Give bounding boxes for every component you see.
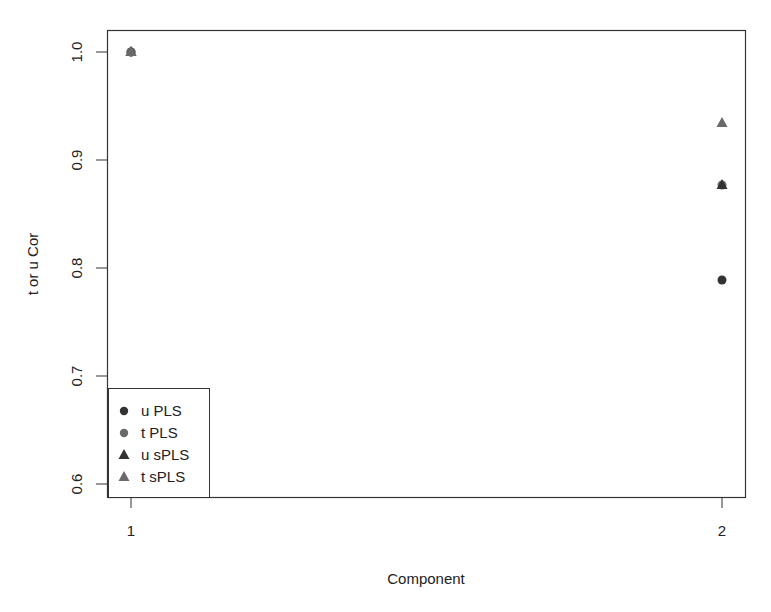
- x-tick-label: 1: [127, 522, 135, 539]
- legend-label: u PLS: [141, 402, 182, 419]
- point-t-spls-2: [717, 117, 728, 127]
- x-axis: [131, 497, 722, 508]
- legend-label: u sPLS: [141, 446, 189, 463]
- y-axis-title: t or u Cor: [24, 233, 41, 296]
- point-u-pls-2: [718, 276, 727, 285]
- data-points: [126, 46, 728, 285]
- scatter-chart: 1.0 0.9 0.8 0.7 0.6 1 2 Component t or u…: [0, 0, 771, 612]
- legend-label: t sPLS: [141, 468, 185, 485]
- circle-marker-icon: [120, 407, 128, 415]
- x-axis-title: Component: [387, 570, 465, 587]
- y-tick-label: 0.6: [68, 474, 85, 495]
- y-tick-label: 0.9: [68, 150, 85, 171]
- y-axis: [96, 52, 107, 484]
- circle-marker-icon: [120, 429, 128, 437]
- x-tick-label: 2: [718, 522, 726, 539]
- legend-label: t PLS: [141, 424, 178, 441]
- legend: u PLS t PLS u sPLS t sPLS: [109, 389, 210, 498]
- y-tick-label: 1.0: [68, 42, 85, 63]
- y-tick-label: 0.8: [68, 258, 85, 279]
- y-tick-label: 0.7: [68, 366, 85, 387]
